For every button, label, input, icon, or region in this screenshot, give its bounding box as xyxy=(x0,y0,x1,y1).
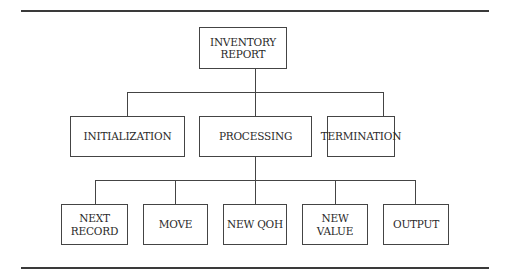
node-label-line: PROCESSING xyxy=(219,130,292,143)
node-initialization: INITIALIZATION xyxy=(70,116,185,157)
connector-root-down xyxy=(255,69,256,92)
node-new-qoh: NEW QOH xyxy=(223,204,287,245)
node-output: OUTPUT xyxy=(383,204,449,245)
connector-processing-down xyxy=(255,157,256,180)
node-label-line: NEW xyxy=(321,212,348,225)
node-label-line: INITIALIZATION xyxy=(84,130,172,143)
node-termination: TERMINATION xyxy=(327,116,395,157)
node-label-line: REPORT xyxy=(221,48,266,61)
connector-to-next-record xyxy=(95,180,96,204)
node-move: MOVE xyxy=(143,204,208,245)
node-label-line: INVENTORY xyxy=(210,36,276,49)
connector-to-processing xyxy=(255,92,256,116)
node-label-line: OUTPUT xyxy=(393,218,439,231)
connector-to-output xyxy=(415,180,416,204)
node-label-line: NEXT xyxy=(79,212,110,225)
node-label-line: VALUE xyxy=(317,225,353,238)
bottom-rule xyxy=(21,267,489,269)
connector-to-initialization xyxy=(127,92,128,116)
top-rule xyxy=(21,10,489,12)
node-next-record: NEXT RECORD xyxy=(61,204,128,245)
connector-to-new-value xyxy=(335,180,336,204)
node-label-line: TERMINATION xyxy=(321,130,401,143)
connector-to-move xyxy=(175,180,176,204)
node-processing: PROCESSING xyxy=(199,116,312,157)
node-label-line: MOVE xyxy=(159,218,193,231)
connector-to-termination xyxy=(383,92,384,116)
node-inventory-report: INVENTORY REPORT xyxy=(199,27,287,69)
node-label-line: NEW QOH xyxy=(227,218,283,231)
connector-to-new-qoh xyxy=(255,180,256,204)
node-label-line: RECORD xyxy=(71,225,118,238)
node-new-value: NEW VALUE xyxy=(302,204,368,245)
